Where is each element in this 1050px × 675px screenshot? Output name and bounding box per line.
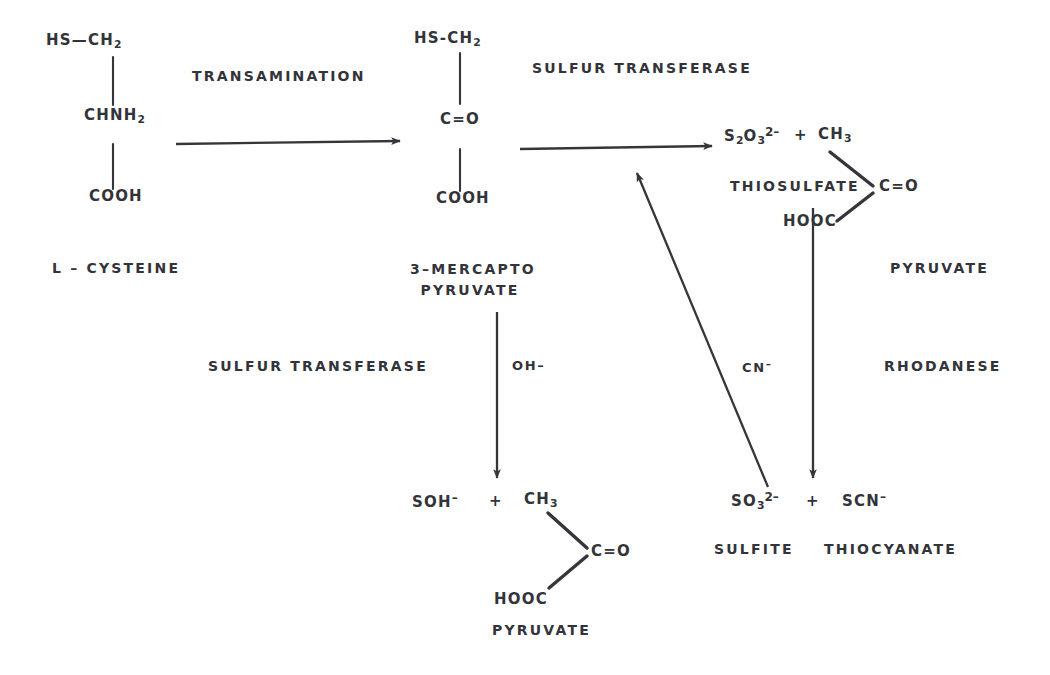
cysteine-amine-group: CHNH2: [84, 107, 145, 126]
pathway-canvas: [0, 0, 1050, 675]
mercaptopyruvate-carboxyl-group: COOH: [436, 190, 490, 207]
pyruvate-bottom-carbonyl-group: C=O: [591, 543, 631, 560]
label-cyanide: CN–: [742, 359, 771, 376]
pyruvate-right-carboxyl-group: HOOC: [783, 213, 837, 230]
sulfite-formula: SO32–: [731, 491, 779, 512]
sulfite-plus-sign: +: [806, 493, 820, 510]
label-sulfur-transferase-left: SULFUR TRANSFERASE: [208, 358, 428, 374]
sulfur-transferase-arrow: [520, 146, 712, 149]
pyruvate-bottom-methyl-group: CH3: [524, 491, 557, 510]
pyruvate-right-carbonyl-group: C=O: [879, 178, 919, 195]
label-pyruvate-right: PYRUVATE: [890, 260, 989, 276]
pyruvate-bottom-carboxyl-group: HOOC: [494, 591, 548, 608]
cysteine-carboxyl-group: COOH: [89, 188, 143, 205]
sulfenate-plus-sign: +: [489, 493, 503, 510]
thiocyanate-formula: SCN–: [842, 491, 886, 510]
cysteine-thiol-group: HS—CH2: [46, 32, 121, 51]
mercaptopyruvate-carbonyl-group: C=O: [440, 111, 480, 128]
label-l-cysteine: L – CYSTEINE: [52, 260, 180, 276]
pyruvate-right-methyl-group: CH3: [818, 126, 851, 145]
label-sulfite: SULFITE: [714, 541, 794, 557]
sulfenate-formula: SOH–: [412, 492, 458, 511]
label-hydroxide: OH–: [512, 359, 545, 374]
label-pyruvate-bottom: PYRUVATE: [492, 622, 591, 638]
label-3-mercaptopyruvate: 3–MERCAPTO PYRUVATE: [410, 259, 530, 301]
sulfite-to-pathway-arrow: [637, 173, 768, 487]
label-transamination: TRANSAMINATION: [192, 68, 366, 84]
pyruvate-bottom-bond-ch3: [548, 513, 587, 548]
label-rhodanese: RHODANESE: [884, 358, 1002, 374]
transamination-arrow: [176, 141, 400, 144]
pyruvate-bottom-bond-hooc: [549, 556, 587, 588]
thiosulfate-plus-sign: +: [794, 127, 808, 144]
label-thiocyanate: THIOCYANATE: [824, 541, 957, 557]
mercaptopyruvate-thiol-group: HS-CH2: [414, 30, 481, 49]
pyruvate-right-bond-hooc: [837, 193, 873, 221]
label-thiosulfate: THIOSULFATE: [730, 178, 860, 194]
thiosulfate-formula: S2O32–: [724, 126, 779, 147]
label-sulfur-transferase-top: SULFUR TRANSFERASE: [532, 60, 752, 76]
